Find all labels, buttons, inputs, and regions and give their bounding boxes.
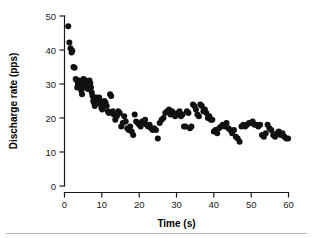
x-tick-label-0: 0 <box>62 199 67 210</box>
x-axis-tick-labels: 0 10 20 30 40 50 60 <box>62 199 294 210</box>
data-point <box>130 132 136 138</box>
data-point <box>257 122 263 128</box>
data-point <box>132 112 138 118</box>
data-point <box>69 48 75 54</box>
y-tick-label-10: 10 <box>45 147 56 158</box>
y-tick-label-20: 20 <box>45 113 56 124</box>
data-point <box>121 113 127 119</box>
figure-container: 50 40 30 20 10 0 Discharge rate (pps) <box>0 0 313 238</box>
data-point <box>65 23 71 29</box>
data-point <box>153 127 159 133</box>
data-point <box>66 40 72 46</box>
data-point <box>108 93 114 99</box>
x-tick-label-40: 40 <box>209 199 220 210</box>
data-point <box>268 127 274 133</box>
data-point <box>188 124 194 130</box>
y-tick-label-30: 30 <box>45 79 56 90</box>
data-point <box>285 135 291 141</box>
scatter-plot: 50 40 30 20 10 0 Discharge rate (pps) <box>0 0 313 238</box>
data-point <box>123 118 129 124</box>
x-tick-label-60: 60 <box>283 199 294 210</box>
data-point <box>104 103 110 109</box>
x-tick-label-20: 20 <box>134 199 145 210</box>
y-axis-ticks <box>60 16 65 186</box>
x-tick-label-50: 50 <box>246 199 257 210</box>
y-axis-group: 50 40 30 20 10 0 Discharge rate (pps) <box>8 11 65 192</box>
y-axis-title: Discharge rate (pps) <box>8 53 19 150</box>
y-tick-label-50: 50 <box>45 11 56 22</box>
x-axis-title: Time (s) <box>157 218 195 229</box>
data-point <box>155 135 161 141</box>
data-point <box>79 91 85 97</box>
x-tick-label-30: 30 <box>171 199 182 210</box>
data-point <box>88 84 94 90</box>
data-point <box>231 127 237 133</box>
data-point <box>209 117 215 123</box>
x-axis-ticks <box>65 193 289 198</box>
data-point <box>224 120 230 126</box>
data-point <box>214 130 220 136</box>
data-point <box>72 65 78 71</box>
y-tick-label-40: 40 <box>45 45 56 56</box>
data-point <box>237 139 243 145</box>
y-axis-tick-labels: 50 40 30 20 10 0 <box>45 11 56 192</box>
x-axis-group: 0 10 20 30 40 50 60 Time (s) <box>62 193 294 230</box>
data-point <box>185 110 191 116</box>
data-point <box>196 113 202 119</box>
data-point <box>127 124 133 130</box>
data-point <box>160 115 166 121</box>
data-point <box>193 107 199 113</box>
y-tick-label-0: 0 <box>51 181 56 192</box>
x-tick-label-10: 10 <box>97 199 108 210</box>
data-points-layer <box>65 23 291 145</box>
data-point <box>142 117 148 123</box>
data-point <box>263 130 269 136</box>
